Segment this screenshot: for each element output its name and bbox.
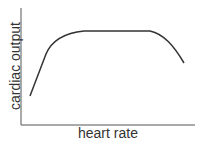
cardiac-output-curve: [30, 31, 184, 96]
y-axis-label: cardiac output: [7, 21, 23, 111]
chart: cardiac output heart rate: [0, 0, 202, 146]
x-axis-label: heart rate: [78, 125, 138, 141]
